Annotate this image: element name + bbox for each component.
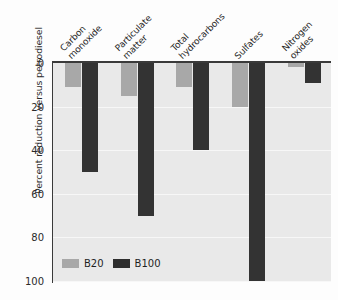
bar-b100 (305, 63, 321, 83)
bar-b100 (82, 63, 98, 172)
bar-group (164, 63, 220, 281)
y-tick-label-60: 60 (20, 188, 44, 199)
bar-group (220, 63, 276, 281)
legend-entry-b20: B20 (62, 258, 104, 269)
bar-b100 (193, 63, 209, 150)
category-label: Totalhydrocarbons (169, 3, 227, 61)
category-label: Particulatematter (114, 13, 162, 61)
bar-b20 (65, 63, 81, 87)
bar-b20 (288, 63, 304, 67)
category-label: Sulfates (232, 28, 265, 61)
bar-b20 (176, 63, 192, 87)
y-tick-label-20: 20 (20, 101, 44, 112)
category-label: Carbonmonoxide (58, 15, 104, 61)
bar-group (275, 63, 331, 281)
bars-layer (53, 63, 331, 281)
bar-b100 (249, 63, 265, 281)
chart-legend: B20B100 (62, 258, 161, 269)
chart-figure: Percent reduction versus petrodiesel 020… (0, 0, 338, 300)
y-tick-label-40: 40 (20, 145, 44, 156)
category-label: Nitrogenoxides (280, 19, 322, 61)
legend-label-b20: B20 (84, 258, 104, 269)
bar-b20 (121, 63, 137, 96)
legend-swatch-b100 (113, 259, 130, 268)
bar-b100 (138, 63, 154, 216)
legend-swatch-b20 (62, 259, 79, 268)
y-tick-label-100: 100 (20, 276, 44, 287)
category-label-line: Sulfates (232, 28, 265, 61)
legend-entry-b100: B100 (113, 258, 161, 269)
y-tick-label-80: 80 (20, 232, 44, 243)
x-axis-category-labels: CarbonmonoxideParticulatematterTotalhydr… (0, 0, 338, 63)
bar-group (53, 63, 109, 281)
bar-group (109, 63, 165, 281)
legend-label-b100: B100 (135, 258, 161, 269)
gridline-100 (53, 281, 331, 282)
bar-b20 (232, 63, 248, 107)
